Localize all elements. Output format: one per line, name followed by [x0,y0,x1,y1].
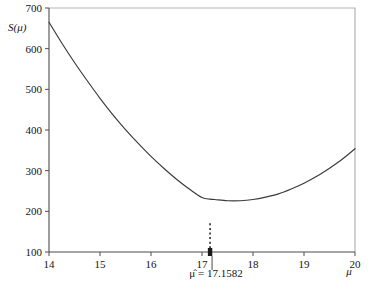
plot-frame [49,8,355,252]
x-axis-tick-label: 19 [299,258,311,270]
x-axis-tick-label: 15 [95,258,107,270]
y-axis-tick-labels: 100200300400500600700 [26,2,43,258]
y-axis-tick-label: 200 [26,205,43,217]
y-axis-tick-label: 500 [26,83,43,95]
x-axis-title: μ [345,265,352,277]
scatter-plot-svg: 100200300400500600700 14151617181920 S(μ… [0,0,368,295]
minimum-axis-marker [208,248,212,256]
x-axis-ticks [49,252,355,256]
x-axis-tick-label: 18 [248,258,260,270]
figure-container: 100200300400500600700 14151617181920 S(μ… [0,0,368,295]
x-axis-tick-label: 16 [146,258,158,270]
x-axis-tick-label: 14 [44,258,56,270]
y-axis-tick-label: 700 [26,2,43,14]
y-axis-ticks [45,8,49,252]
y-axis-tick-label: 300 [26,165,43,177]
y-axis-title: S(μ) [8,21,27,34]
data-curve [49,22,355,201]
mu-hat-annotation-label: μ̂ = 17.1582 [189,267,242,279]
y-axis-tick-label: 600 [26,43,43,55]
y-axis-tick-label: 400 [26,124,43,136]
y-axis-tick-label: 100 [26,246,43,258]
